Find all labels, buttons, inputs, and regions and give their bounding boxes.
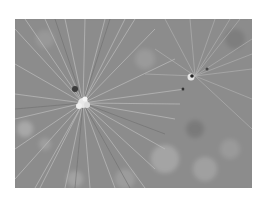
photo-canvas: [15, 19, 252, 188]
pine-needle-photo: [15, 19, 252, 188]
